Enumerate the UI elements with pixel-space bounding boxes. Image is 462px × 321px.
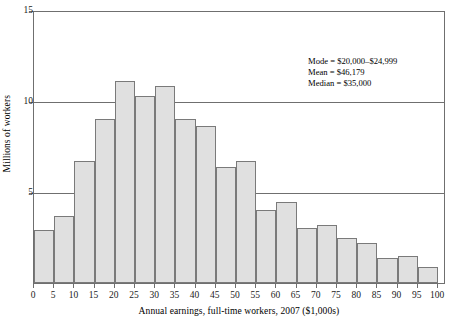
x-tick-mark — [114, 284, 115, 288]
annotation-mode: Mode = $20,000–$24,999 — [308, 56, 397, 67]
x-tick-mark — [275, 284, 276, 288]
histogram-bar — [175, 119, 195, 283]
histogram-bar — [155, 86, 175, 283]
x-tick-mark — [417, 284, 418, 288]
histogram-bar — [34, 230, 54, 283]
y-tick-label-15: 15 — [7, 6, 33, 16]
x-tick-mark — [33, 284, 34, 288]
histogram-bar — [115, 81, 135, 283]
histogram-bar — [398, 256, 418, 283]
plot-area: Mode = $20,000–$24,999 Mean = $46,179 Me… — [33, 11, 445, 284]
histogram-bar — [418, 267, 438, 283]
annotation-median: Median = $35,000 — [308, 78, 397, 89]
histogram-bar — [337, 238, 357, 284]
histogram-bar — [54, 216, 74, 283]
histogram-bar — [135, 96, 155, 283]
x-tick-mark — [437, 284, 438, 288]
x-tick-mark — [154, 284, 155, 288]
x-tick-mark — [94, 284, 95, 288]
annotation-mean: Mean = $46,179 — [308, 67, 397, 78]
histogram-bar — [377, 258, 397, 283]
x-tick-mark — [356, 284, 357, 288]
x-axis-title: Annual earnings, full-time workers, 2007… — [33, 306, 445, 316]
y-axis-title: Millions of workers — [2, 95, 12, 172]
histogram-bar — [216, 167, 236, 283]
x-tick-mark — [397, 284, 398, 288]
histogram-bar — [357, 243, 377, 283]
x-axis: Annual earnings, full-time workers, 2007… — [33, 284, 445, 321]
x-tick-mark — [235, 284, 236, 288]
x-tick-label: 100 — [422, 290, 452, 300]
histogram-bar — [95, 119, 115, 283]
x-tick-mark — [73, 284, 74, 288]
histogram-bar — [297, 228, 317, 283]
histogram-bar — [256, 210, 276, 283]
histogram-bar — [317, 225, 337, 283]
x-tick-mark — [336, 284, 337, 288]
histogram-bar — [74, 161, 94, 283]
histogram-bar — [276, 202, 296, 283]
statistics-annotation: Mode = $20,000–$24,999 Mean = $46,179 Me… — [308, 56, 397, 90]
x-tick-mark — [215, 284, 216, 288]
x-tick-mark — [195, 284, 196, 288]
bars-layer — [34, 12, 438, 283]
histogram-bar — [236, 161, 256, 283]
y-tick-label-5: 5 — [7, 188, 33, 198]
histogram-figure: 15 10 5 Millions of workers Mode = $20,0… — [0, 0, 462, 321]
x-tick-mark — [296, 284, 297, 288]
x-tick-mark — [174, 284, 175, 288]
x-tick-mark — [134, 284, 135, 288]
x-tick-mark — [53, 284, 54, 288]
x-tick-mark — [316, 284, 317, 288]
x-tick-mark — [376, 284, 377, 288]
histogram-bar — [196, 126, 216, 283]
x-tick-mark — [255, 284, 256, 288]
